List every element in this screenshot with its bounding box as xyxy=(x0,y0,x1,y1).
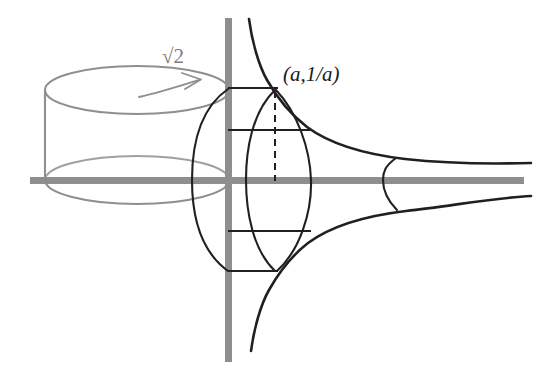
radius-arrow-head xyxy=(182,73,201,89)
radius-arrow-group xyxy=(139,73,201,97)
cylinder-top-ellipse xyxy=(45,66,229,114)
point-label: (a,1/a) xyxy=(283,62,340,87)
figure-container: (a,1/a) √2 xyxy=(0,0,554,379)
axes-group xyxy=(30,18,524,362)
radius-label: √2 xyxy=(162,44,184,69)
figure-canvas xyxy=(0,0,554,379)
hyperbola-lower-branch xyxy=(251,196,531,351)
radius-arrow-shaft xyxy=(139,80,199,97)
hyperbola-upper-branch xyxy=(249,19,531,164)
cylinder-bottom-back-arc xyxy=(45,156,229,180)
